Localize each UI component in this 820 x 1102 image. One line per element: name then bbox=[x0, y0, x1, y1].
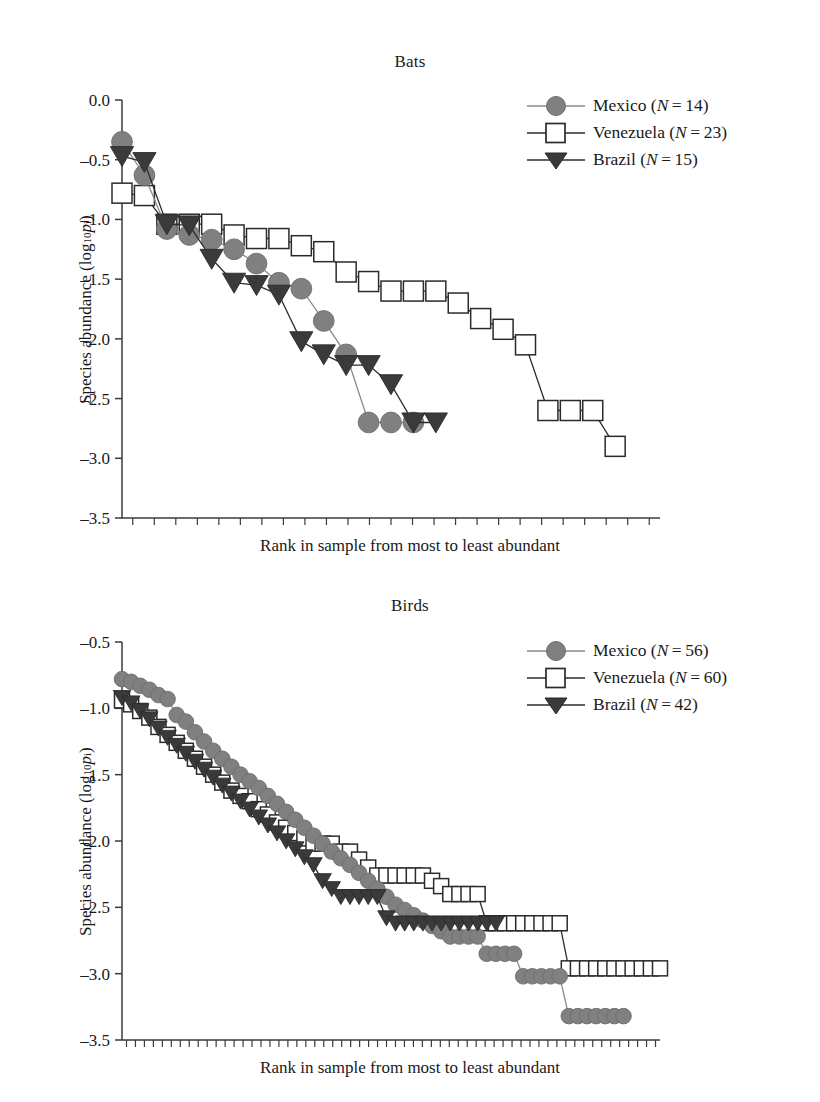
legend-marker-triangle-icon bbox=[525, 694, 587, 716]
legend-label-venezuela: Venezuela (N = 60) bbox=[587, 669, 727, 687]
svg-text:–2.5: –2.5 bbox=[79, 898, 110, 917]
panel-birds: Birds Species abundance (log10pi) –0.5–1… bbox=[0, 580, 820, 1102]
svg-text:–2.0: –2.0 bbox=[79, 330, 110, 349]
x-axis-label-birds: Rank in sample from most to least abunda… bbox=[0, 1058, 820, 1078]
legend-label-venezuela: Venezuela (N = 23) bbox=[587, 124, 727, 142]
legend-marker-square-icon bbox=[525, 667, 587, 689]
legend-item-brazil[interactable]: Brazil (N = 42) bbox=[525, 691, 727, 718]
legend-marker-square-icon bbox=[525, 122, 587, 144]
panel-bats: Bats Species abundance (log10pi) 0.0–0.5… bbox=[0, 0, 820, 580]
legend-marker-triangle-icon bbox=[525, 149, 587, 171]
svg-text:–3.0: –3.0 bbox=[79, 449, 110, 468]
legend-label-mexico: Mexico (N = 14) bbox=[587, 97, 709, 115]
svg-text:–2.5: –2.5 bbox=[79, 390, 110, 409]
svg-text:–1.0: –1.0 bbox=[79, 699, 110, 718]
legend-label-mexico: Mexico (N = 56) bbox=[587, 642, 709, 660]
svg-text:0.0: 0.0 bbox=[89, 91, 110, 110]
svg-text:–2.0: –2.0 bbox=[79, 832, 110, 851]
svg-text:–3.5: –3.5 bbox=[79, 509, 110, 528]
legend-item-venezuela[interactable]: Venezuela (N = 60) bbox=[525, 664, 727, 691]
legend-item-brazil[interactable]: Brazil (N = 15) bbox=[525, 146, 727, 173]
svg-text:–1.5: –1.5 bbox=[79, 766, 110, 785]
svg-text:–1.5: –1.5 bbox=[79, 270, 110, 289]
svg-text:–3.0: –3.0 bbox=[79, 965, 110, 984]
legend-marker-circle-icon bbox=[525, 640, 587, 662]
svg-text:–3.5: –3.5 bbox=[79, 1031, 110, 1050]
plot-area-bats: 0.0–0.5–1.0–1.5–2.0–2.5–3.0–3.5 bbox=[0, 0, 820, 580]
legend-label-brazil: Brazil (N = 42) bbox=[587, 696, 698, 714]
svg-text:–0.5: –0.5 bbox=[79, 151, 110, 170]
svg-text:–1.0: –1.0 bbox=[79, 210, 110, 229]
legend-item-mexico[interactable]: Mexico (N = 14) bbox=[525, 92, 727, 119]
legend-bats: Mexico (N = 14) Venezuela (N = 23) Brazi… bbox=[525, 92, 727, 173]
legend-item-mexico[interactable]: Mexico (N = 56) bbox=[525, 637, 727, 664]
legend-birds: Mexico (N = 56) Venezuela (N = 60) Brazi… bbox=[525, 637, 727, 718]
legend-item-venezuela[interactable]: Venezuela (N = 23) bbox=[525, 119, 727, 146]
x-axis-label-bats: Rank in sample from most to least abunda… bbox=[0, 536, 820, 556]
legend-label-brazil: Brazil (N = 15) bbox=[587, 151, 698, 169]
legend-marker-circle-icon bbox=[525, 95, 587, 117]
svg-text:–0.5: –0.5 bbox=[79, 633, 110, 652]
